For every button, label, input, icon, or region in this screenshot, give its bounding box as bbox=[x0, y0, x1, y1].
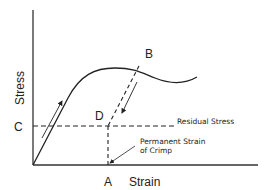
point-a-label: A bbox=[104, 175, 112, 189]
x-axis-label: Strain bbox=[129, 175, 160, 189]
unloading-arrow bbox=[122, 82, 137, 113]
unloading-line bbox=[108, 66, 139, 126]
residual-stress-label: Residual Stress bbox=[177, 117, 234, 126]
stress-strain-curve bbox=[33, 68, 197, 165]
stress-strain-diagram: Stress Strain A B C D Residual Stress Pe… bbox=[0, 0, 271, 190]
point-c-label: C bbox=[14, 120, 23, 134]
loading-arrow bbox=[42, 101, 62, 138]
permanent-strain-label: Permanent Strain bbox=[140, 137, 206, 146]
point-d-label: D bbox=[95, 109, 104, 123]
crimp-label: of Crimp bbox=[140, 146, 172, 155]
y-axis-label: Stress bbox=[13, 71, 27, 105]
crimp-pointer-arrow bbox=[110, 146, 135, 163]
point-b-label: B bbox=[145, 47, 153, 61]
